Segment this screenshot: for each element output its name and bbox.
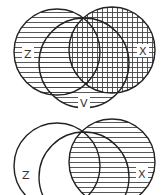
- venn-figure: Z V X Z X: [0, 0, 168, 195]
- label-v: V: [80, 97, 88, 110]
- label-z: Z: [24, 48, 32, 61]
- top-venn-diagram: Z V X: [0, 0, 168, 115]
- bottom-venn-diagram: Z X: [0, 115, 168, 195]
- label-x: X: [138, 168, 146, 181]
- label-z: Z: [22, 169, 30, 182]
- horizontal-hatching-x: [0, 115, 168, 195]
- label-x: X: [139, 45, 147, 58]
